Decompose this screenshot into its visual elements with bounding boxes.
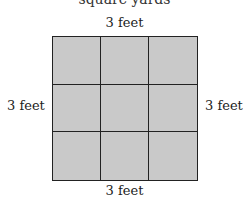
square-grid-3x3 bbox=[52, 36, 198, 181]
grid-cell bbox=[149, 37, 197, 85]
grid-cell bbox=[53, 37, 101, 85]
grid-cell bbox=[101, 37, 149, 85]
grid-cell bbox=[101, 85, 149, 133]
cropped-caption: square yards bbox=[0, 0, 249, 7]
grid-cell bbox=[53, 132, 101, 180]
left-dimension-label: 3 feet bbox=[7, 98, 45, 113]
top-dimension-label: 3 feet bbox=[0, 15, 249, 30]
right-dimension-label: 3 feet bbox=[205, 98, 243, 113]
grid-cell bbox=[149, 85, 197, 133]
grid-cell bbox=[101, 132, 149, 180]
grid-cell bbox=[149, 132, 197, 180]
grid-cell bbox=[53, 85, 101, 133]
bottom-dimension-label: 3 feet bbox=[0, 183, 249, 198]
